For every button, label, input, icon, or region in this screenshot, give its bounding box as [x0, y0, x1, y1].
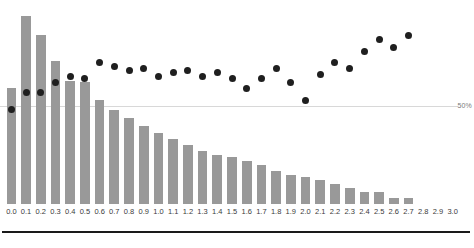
x-axis-tick-label: 0.7: [109, 207, 119, 216]
data-point: [346, 65, 353, 72]
data-point: [111, 63, 118, 70]
data-point: [199, 73, 206, 80]
data-point: [287, 79, 294, 86]
x-axis-tick-label: 1.0: [153, 207, 163, 216]
data-point: [140, 65, 147, 72]
x-axis-tick-label: 1.1: [168, 207, 178, 216]
x-axis-tick-label: 0.4: [65, 207, 75, 216]
x-axis: 0.00.10.20.30.40.50.60.70.80.91.01.11.21…: [0, 204, 474, 224]
data-point: [302, 97, 309, 104]
data-point: [81, 75, 88, 82]
data-point: [317, 71, 324, 78]
data-point: [273, 65, 280, 72]
x-axis-tick-label: 1.8: [271, 207, 281, 216]
x-axis-tick-label: 2.9: [433, 207, 443, 216]
data-point: [23, 89, 30, 96]
data-point: [8, 106, 15, 113]
data-point: [229, 75, 236, 82]
bottom-divider: [2, 231, 470, 233]
x-axis-tick-label: 0.8: [124, 207, 134, 216]
x-axis-tick-label: 0.1: [21, 207, 31, 216]
data-point: [96, 59, 103, 66]
x-axis-tick-label: 0.3: [50, 207, 60, 216]
x-axis-tick-label: 2.3: [344, 207, 354, 216]
data-point: [376, 36, 383, 43]
x-axis-tick-label: 1.4: [212, 207, 222, 216]
data-point: [170, 69, 177, 76]
data-point: [214, 69, 221, 76]
x-axis-tick-label: 2.5: [374, 207, 384, 216]
x-axis-tick-label: 1.6: [241, 207, 251, 216]
x-axis-tick-label: 2.1: [315, 207, 325, 216]
data-point: [126, 67, 133, 74]
x-axis-tick-label: 2.4: [359, 207, 369, 216]
data-point: [155, 73, 162, 80]
x-axis-tick-label: 3.0: [447, 207, 457, 216]
x-axis-tick-label: 2.6: [389, 207, 399, 216]
data-point: [37, 89, 44, 96]
x-axis-tick-label: 0.6: [94, 207, 104, 216]
plot-area: 50%: [0, 0, 474, 204]
x-axis-tick-label: 0.2: [36, 207, 46, 216]
data-point: [243, 85, 250, 92]
data-point: [67, 73, 74, 80]
scatter-series: [0, 0, 474, 204]
x-axis-tick-label: 2.2: [330, 207, 340, 216]
chart-container: 50% 0.00.10.20.30.40.50.60.70.80.91.01.1…: [0, 0, 474, 248]
x-axis-tick-label: 1.2: [183, 207, 193, 216]
data-point: [52, 79, 59, 86]
data-point: [405, 32, 412, 39]
data-point: [258, 75, 265, 82]
data-point: [361, 48, 368, 55]
x-axis-tick-label: 1.5: [227, 207, 237, 216]
x-axis-tick-label: 0.0: [6, 207, 16, 216]
x-axis-tick-label: 1.3: [197, 207, 207, 216]
x-axis-tick-label: 0.5: [80, 207, 90, 216]
x-axis-tick-label: 2.7: [403, 207, 413, 216]
x-axis-tick-label: 2.0: [300, 207, 310, 216]
data-point: [390, 44, 397, 51]
data-point: [184, 67, 191, 74]
x-axis-tick-label: 2.8: [418, 207, 428, 216]
x-axis-tick-label: 0.9: [139, 207, 149, 216]
x-axis-tick-label: 1.9: [286, 207, 296, 216]
data-point: [331, 59, 338, 66]
x-axis-tick-label: 1.7: [256, 207, 266, 216]
